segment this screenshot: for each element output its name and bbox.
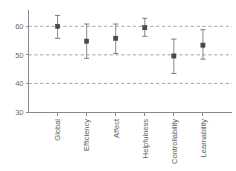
y-tick-label-60: 60 <box>15 22 23 31</box>
data-point-global <box>55 15 60 38</box>
x-category-label-learnability: Learnability <box>199 119 208 158</box>
chart-container: 60504030 GlobalEfficiencyAffectHelpfulne… <box>0 0 236 171</box>
data-point-helpfulness <box>142 18 147 36</box>
data-point-efficiency <box>84 24 89 58</box>
x-category-label-helpfulness: Helpfulness <box>141 119 150 158</box>
mean-marker <box>85 39 89 43</box>
mean-marker <box>201 43 205 47</box>
gridlines-group <box>29 26 233 83</box>
y-tick-label-40: 40 <box>15 79 23 88</box>
data-points-group <box>55 15 206 73</box>
y-tick-label-30: 30 <box>15 108 23 117</box>
mean-marker <box>55 24 59 28</box>
y-tick-label-50: 50 <box>15 51 23 60</box>
y-tick-labels-group: 60504030 <box>15 22 23 117</box>
data-point-affect <box>113 24 118 53</box>
mean-marker <box>172 54 176 58</box>
scatter-error-bar-chart: 60504030 GlobalEfficiencyAffectHelpfulne… <box>0 0 236 171</box>
data-point-controllability <box>171 39 176 73</box>
x-category-label-efficiency: Efficiency <box>82 119 91 151</box>
x-category-label-global: Global <box>53 119 62 141</box>
x-category-labels-group: GlobalEfficiencyAffectHelpfulnessControl… <box>53 118 207 164</box>
x-category-label-controllability: Controllability <box>170 119 179 164</box>
mean-marker <box>143 26 147 30</box>
x-category-label-affect: Affect <box>112 118 121 138</box>
mean-marker <box>114 36 118 40</box>
